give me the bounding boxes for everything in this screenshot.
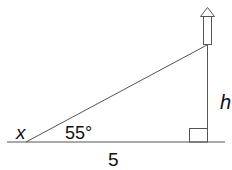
rocket-icon: [201, 8, 215, 45]
angle-value-label: 55°: [65, 124, 92, 142]
diagram-lines: [0, 0, 232, 170]
right-angle-marker: [190, 129, 208, 143]
hypotenuse: [26, 45, 207, 142]
base-length-label: 5: [108, 150, 119, 169]
height-label: h: [220, 92, 231, 112]
angle-vertex-label: x: [16, 123, 26, 142]
triangle-diagram: x 55° 5 h: [0, 0, 232, 170]
